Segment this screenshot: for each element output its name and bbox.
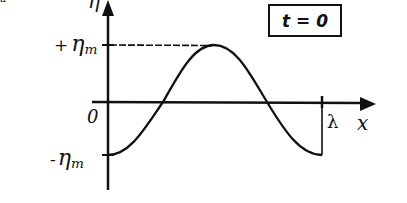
- minus-amplitude-label: -ηm: [50, 147, 84, 171]
- time-label-box: t = 0: [268, 4, 342, 37]
- zero-label: 0: [87, 108, 98, 126]
- plus-sign: +: [54, 35, 68, 55]
- wave-diagram: [0, 0, 407, 203]
- plus-amplitude-label: +ηm: [54, 33, 97, 57]
- eta-subscript: m: [84, 41, 97, 57]
- wave-curve: [108, 45, 322, 155]
- eta-symbol: η: [58, 145, 71, 170]
- corner-mark: a: [0, 0, 6, 4]
- eta-subscript: m: [71, 155, 84, 171]
- y-axis-label: η: [88, 0, 100, 11]
- x-axis-arrow-icon: [360, 97, 376, 111]
- eta-symbol: η: [71, 31, 84, 56]
- y-axis-arrow-icon: [102, 0, 114, 16]
- minus-sign: -: [50, 149, 56, 169]
- amplitude-guide-dashed: [110, 45, 212, 46]
- time-label: t = 0: [282, 11, 328, 31]
- wavelength-label: λ: [327, 113, 338, 131]
- x-axis-label: x: [357, 113, 368, 133]
